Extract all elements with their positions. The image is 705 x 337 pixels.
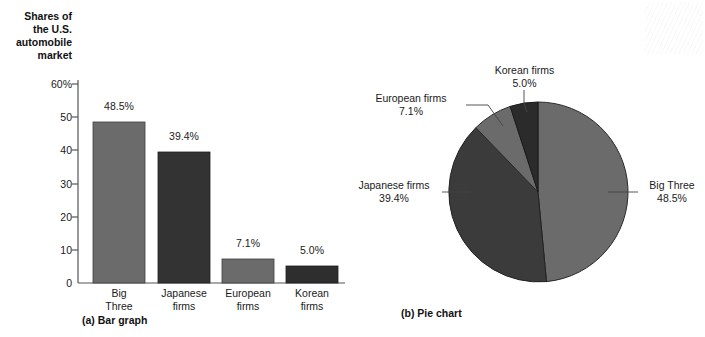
bar-value-korean-firms: 5.0% <box>277 244 347 256</box>
pie-label-japanese-firms-value: 39.4% <box>348 192 440 205</box>
x-category-label-korean-firms-line-1: Korean <box>272 287 352 300</box>
pie-label-korean-firms-value: 5.0% <box>472 77 577 90</box>
bar-value-european-firms: 7.1% <box>213 237 283 249</box>
pie-label-european-firms: European firms 7.1% <box>357 92 465 117</box>
bar-graph-panel: Shares of the U.S. automobile market 60%… <box>0 0 360 337</box>
bar-big-three <box>93 122 145 283</box>
x-category-label-korean-firms-line-2: firms <box>272 300 352 313</box>
pie-label-big-three-name: Big Three <box>641 179 703 192</box>
pie-label-japanese-firms: Japanese firms 39.4% <box>348 179 440 204</box>
bar-european-firms <box>222 259 274 283</box>
pie-label-korean-firms-name: Korean firms <box>472 64 577 77</box>
bar-value-big-three: 48.5% <box>84 100 154 112</box>
bar-value-japanese-firms: 39.4% <box>149 130 219 142</box>
x-category-label-korean-firms: Korean firms <box>272 287 352 312</box>
pie-label-big-three: Big Three 48.5% <box>641 179 703 204</box>
panel-b-caption: (b) Pie chart <box>401 307 462 319</box>
panel-a-caption: (a) Bar graph <box>82 314 147 326</box>
pie-label-japanese-firms-name: Japanese firms <box>348 179 440 192</box>
pie-label-european-firms-value: 7.1% <box>357 105 465 118</box>
pie-label-european-firms-name: European firms <box>357 92 465 105</box>
pie-label-big-three-value: 48.5% <box>641 192 703 205</box>
bar-japanese-firms <box>158 152 210 283</box>
pie-chart-panel: Korean firms 5.0% European firms 7.1% Ja… <box>360 0 705 337</box>
pie-label-korean-firms: Korean firms 5.0% <box>472 64 577 89</box>
pie-chart-svg <box>360 0 705 337</box>
y-axis-ticks <box>72 84 78 250</box>
bar-korean-firms <box>286 266 338 283</box>
